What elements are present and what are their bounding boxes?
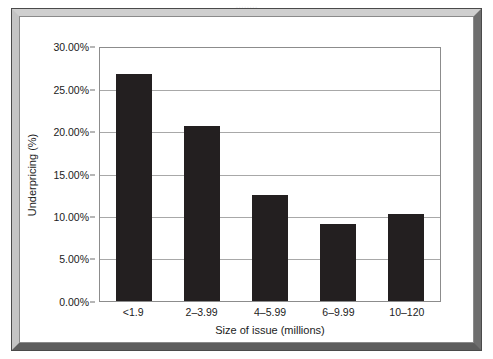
bar[interactable] bbox=[184, 126, 220, 301]
y-tick-label: 5.00% bbox=[59, 253, 89, 265]
bar-slot bbox=[100, 48, 168, 301]
bar[interactable] bbox=[388, 214, 424, 301]
y-tick-mark bbox=[90, 89, 95, 90]
y-tick-mark bbox=[90, 47, 95, 48]
y-tick-label: 10.00% bbox=[53, 211, 89, 223]
bar[interactable] bbox=[116, 74, 152, 301]
x-tick-label: <1.9 bbox=[99, 306, 167, 318]
y-tick-mark bbox=[90, 217, 95, 218]
bar-slot bbox=[372, 48, 440, 301]
y-tick-mark bbox=[90, 174, 95, 175]
page-bleed-text: ........ bbox=[0, 0, 493, 8]
figure-frame: Underpricing (%) 30.00% 25.00% 20.00% 15… bbox=[12, 9, 481, 350]
x-tick-label: 6–9.99 bbox=[304, 306, 372, 318]
y-tick-mark bbox=[90, 302, 95, 303]
x-tick-label: 4–5.99 bbox=[236, 306, 304, 318]
x-axis-title: Size of issue (millions) bbox=[99, 324, 441, 336]
y-tick-label: 15.00% bbox=[53, 169, 89, 181]
y-tick-label: 0.00% bbox=[59, 296, 89, 308]
x-axis: <1.9 2–3.99 4–5.99 6–9.99 10–120 bbox=[99, 306, 441, 318]
bar[interactable] bbox=[252, 195, 288, 301]
bar-series bbox=[100, 48, 440, 301]
x-tick-label: 10–120 bbox=[373, 306, 441, 318]
bar[interactable] bbox=[320, 224, 356, 301]
y-tick-mark bbox=[90, 131, 95, 132]
x-tick-label: 2–3.99 bbox=[167, 306, 235, 318]
bar-slot bbox=[236, 48, 304, 301]
y-axis: 30.00% 25.00% 20.00% 15.00% 10.00% 5.00%… bbox=[19, 47, 95, 302]
plot-area bbox=[99, 47, 441, 302]
y-tick-label: 20.00% bbox=[53, 126, 89, 138]
figure-frame-inner: Underpricing (%) 30.00% 25.00% 20.00% 15… bbox=[19, 16, 474, 343]
y-tick-mark bbox=[90, 259, 95, 260]
bar-slot bbox=[304, 48, 372, 301]
y-tick-label: 25.00% bbox=[53, 84, 89, 96]
bar-chart: Underpricing (%) 30.00% 25.00% 20.00% 15… bbox=[19, 16, 474, 343]
y-tick-label: 30.00% bbox=[53, 41, 89, 53]
bar-slot bbox=[168, 48, 236, 301]
